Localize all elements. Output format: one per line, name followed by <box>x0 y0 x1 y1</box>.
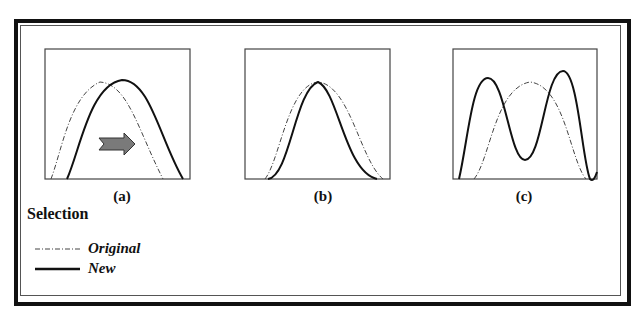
legend-new-label: New <box>88 260 116 277</box>
panel-b <box>245 49 390 179</box>
panel-c-original-curve <box>474 82 586 179</box>
panel-b-box <box>245 49 390 179</box>
figure-title: Selection <box>27 205 88 223</box>
right-arrow-icon <box>99 133 135 155</box>
panel-a-label: (a) <box>113 188 131 205</box>
panel-c-label: (c) <box>516 188 533 205</box>
panel-a-original-curve <box>51 82 163 179</box>
panel-a <box>45 49 190 179</box>
panel-c-new-curve <box>459 71 597 180</box>
panel-b-label: (b) <box>314 188 332 205</box>
panel-c <box>453 49 597 180</box>
panel-b-new-curve <box>268 82 377 179</box>
legend-original-label: Original <box>88 240 141 257</box>
panel-a-box <box>45 49 190 179</box>
panel-b-original-curve <box>265 82 383 179</box>
